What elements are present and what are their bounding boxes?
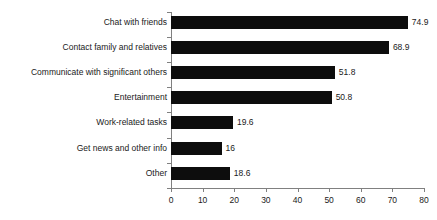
bar-value-label: 51.8: [339, 67, 356, 78]
bar-chart: Chat with friendsContact family and rela…: [0, 0, 437, 220]
category-axis-labels: Chat with friendsContact family and rela…: [0, 12, 167, 188]
value-axis-tick-label: 50: [324, 195, 333, 205]
category-label: Chat with friends: [0, 17, 167, 27]
value-axis-tick-label: 20: [230, 195, 239, 205]
value-axis-tick-label: 30: [261, 195, 270, 205]
value-axis-tick: [424, 188, 425, 192]
bar-row: 51.8: [171, 66, 424, 79]
value-axis-tick: [361, 188, 362, 192]
category-axis-tick: [167, 138, 171, 139]
bar: [171, 66, 335, 79]
value-axis-tick-label: 0: [169, 195, 174, 205]
value-axis-tick-label: 70: [388, 195, 397, 205]
bar-row: 19.6: [171, 116, 424, 129]
category-axis-tick: [167, 87, 171, 88]
category-axis-tick: [167, 163, 171, 164]
category-label: Contact family and relatives: [0, 42, 167, 52]
category-label: Other: [0, 168, 167, 178]
bar-value-label: 68.9: [393, 42, 410, 53]
category-label: Work-related tasks: [0, 117, 167, 127]
bar-row: 50.8: [171, 91, 424, 104]
bar-value-label: 19.6: [237, 117, 254, 128]
category-label: Get news and other info: [0, 143, 167, 153]
bar-value-label: 18.6: [234, 168, 251, 179]
category-axis-tick: [167, 12, 171, 13]
bar: [171, 116, 233, 129]
bar: [171, 41, 389, 54]
value-axis-tick: [234, 188, 235, 192]
value-axis-tick: [203, 188, 204, 192]
value-axis-tick: [298, 188, 299, 192]
category-label: Entertainment: [0, 92, 167, 102]
plot-area: 74.968.951.850.819.61618.6: [171, 12, 424, 188]
bar-row: 74.9: [171, 16, 424, 29]
value-axis-tick: [171, 188, 172, 192]
value-axis-tick-label: 40: [293, 195, 302, 205]
bar-value-label: 74.9: [412, 17, 429, 28]
category-axis-tick: [167, 37, 171, 38]
bar: [171, 91, 332, 104]
bar: [171, 142, 222, 155]
bar-row: 16: [171, 142, 424, 155]
category-axis-tick: [167, 62, 171, 63]
value-axis-tick: [266, 188, 267, 192]
bar: [171, 16, 408, 29]
bar-row: 68.9: [171, 41, 424, 54]
value-axis-tick-label: 10: [198, 195, 207, 205]
value-axis-tick: [392, 188, 393, 192]
category-axis-tick: [167, 112, 171, 113]
value-axis-tick: [329, 188, 330, 192]
bar-value-label: 50.8: [336, 92, 353, 103]
bar: [171, 167, 230, 180]
category-label: Communicate with significant others: [0, 67, 167, 77]
value-axis-tick-label: 80: [419, 195, 428, 205]
bar-row: 18.6: [171, 167, 424, 180]
bar-value-label: 16: [226, 143, 235, 154]
value-axis-tick-label: 60: [356, 195, 365, 205]
